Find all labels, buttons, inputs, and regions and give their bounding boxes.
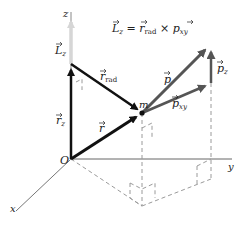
label-Lz: Lz bbox=[54, 42, 66, 58]
label-p: p bbox=[164, 71, 171, 86]
x-axis-label: x bbox=[10, 203, 16, 214]
label-r-z: rz bbox=[56, 113, 65, 128]
mass-label: m bbox=[139, 99, 148, 110]
equation: Lz = rrad × pxy bbox=[111, 20, 193, 36]
label-r: r bbox=[99, 121, 105, 135]
mass-point bbox=[139, 110, 144, 115]
svg-text:pz: pz bbox=[217, 62, 228, 76]
y-axis-label: y bbox=[227, 161, 234, 172]
label-r-rad: rrad bbox=[100, 69, 118, 84]
svg-text:p: p bbox=[164, 73, 171, 86]
svg-text:Lz = rrad × pxy: Lz = rrad × pxy bbox=[111, 22, 189, 36]
axes bbox=[16, 12, 232, 211]
z-axis-label: z bbox=[62, 8, 69, 19]
label-p-z: pz bbox=[217, 60, 228, 76]
origin-label: O bbox=[60, 154, 69, 167]
svg-text:rrad: rrad bbox=[100, 70, 118, 84]
angular-momentum-diagram: z y x O m Lz = rrad × pxy Lz rz rrad r p… bbox=[0, 0, 247, 228]
svg-text:pxy: pxy bbox=[172, 97, 188, 111]
